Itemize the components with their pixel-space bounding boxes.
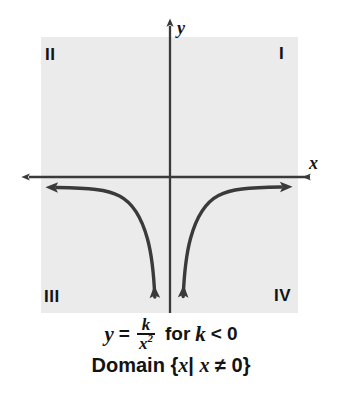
domain-line: Domain {x| x ≠ 0} xyxy=(0,352,342,378)
formula-condition-value: 0 xyxy=(227,319,238,349)
function-graph-figure: y x I II III IV y = k x2 for k < 0 Domai… xyxy=(0,0,342,396)
y-axis-label: y xyxy=(177,19,185,37)
graph-plot-area: y x I II III IV xyxy=(0,0,342,318)
quadrant-label-3: III xyxy=(44,288,60,305)
formula-expression: y = k x2 for k < 0 xyxy=(105,316,238,351)
domain-value: 0 xyxy=(232,354,243,376)
formula-equals-sign: = xyxy=(119,319,130,349)
denominator-exponent: 2 xyxy=(147,332,153,344)
figure-caption: y = k x2 for k < 0 Domain {x| x ≠ 0} xyxy=(0,316,342,378)
formula-fraction: k x2 xyxy=(137,317,155,352)
formula-lhs: y xyxy=(105,319,114,349)
formula-condition-operator: < xyxy=(211,319,222,349)
formula-line: y = k x2 for k < 0 xyxy=(0,316,342,350)
formula-condition-word: for xyxy=(165,319,190,349)
fraction-numerator: k xyxy=(140,317,153,333)
domain-variable-2: x xyxy=(199,354,209,376)
domain-such-that-bar: | xyxy=(188,354,194,376)
domain-close-brace: } xyxy=(243,354,251,376)
quadrant-label-1: I xyxy=(279,45,284,62)
domain-variable-1: x xyxy=(178,354,188,376)
domain-word: Domain xyxy=(92,354,165,376)
domain-not-equal-sign: ≠ xyxy=(215,354,226,376)
quadrant-label-2: II xyxy=(45,46,55,63)
quadrant-label-4: IV xyxy=(274,287,291,304)
fraction-denominator: x2 xyxy=(137,335,155,352)
formula-condition-variable: k xyxy=(195,319,206,349)
x-axis-label: x xyxy=(309,154,318,172)
